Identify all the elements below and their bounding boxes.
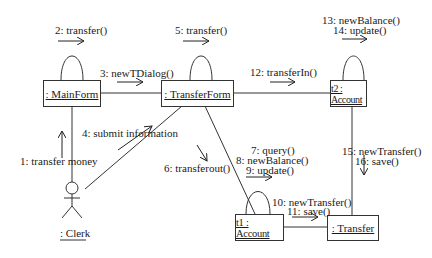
- message-14: 14: update(): [333, 25, 386, 36]
- self-loop-transferform: [190, 56, 212, 80]
- message-6: 6: transferout(): [164, 163, 230, 174]
- message-5: 5: transfer(): [175, 25, 227, 36]
- object-transferform-label: : TransferForm: [164, 88, 230, 100]
- message-11: 11: save(): [287, 206, 330, 217]
- message-2: 2: transfer(): [55, 25, 107, 36]
- object-transfer-label: : Transfer: [332, 222, 374, 234]
- self-loop-mainform: [61, 56, 83, 80]
- object-transfer[interactable]: : Transfer: [327, 215, 379, 241]
- link-clerk-transferform: [85, 106, 182, 189]
- object-t1account-label: t1 : Account: [236, 217, 283, 239]
- arrow-m6: [197, 145, 207, 161]
- object-transferform[interactable]: : TransferForm: [161, 80, 234, 107]
- self-loop-t2account: [343, 56, 364, 80]
- message-1: 1: transfer money: [20, 156, 98, 167]
- object-t2account-label: t2 : Account: [331, 83, 366, 105]
- message-9: 9: update(): [246, 165, 294, 176]
- message-3: 3: newTDialog(): [100, 68, 174, 79]
- object-mainform-label: : MainForm: [46, 88, 99, 100]
- object-t2account[interactable]: t2 : Account: [330, 80, 367, 107]
- message-16: 16: save(): [355, 156, 399, 167]
- object-mainform[interactable]: : MainForm: [43, 80, 101, 107]
- message-12: 12: transferIn(): [250, 67, 317, 78]
- object-t1account[interactable]: t1 : Account: [235, 214, 284, 241]
- actor-clerk-label: : Clerk: [60, 228, 90, 239]
- message-4: 4: submit information: [82, 128, 178, 139]
